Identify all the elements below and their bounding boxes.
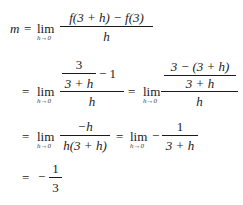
limit-subscript: h→0 [143, 98, 157, 105]
limit-subscript: h→0 [37, 143, 51, 150]
inner-denominator: 3 + h [164, 77, 236, 90]
fraction-numerator: f(3 + h) − f(3) [60, 11, 153, 24]
fraction-denominator: h(3 + h) [60, 139, 110, 152]
fraction-bar [162, 135, 198, 136]
inner-numerator: 3 − (3 + h) [164, 60, 236, 73]
fraction-numerator: 1 [49, 162, 62, 175]
limit-subscript: h→0 [37, 98, 51, 105]
equals-sign: = [116, 130, 123, 143]
negative-sign: − [152, 129, 159, 142]
minus-one: − 1 [99, 67, 116, 80]
fraction-bar [60, 26, 153, 27]
fraction-denominator: h [60, 95, 124, 108]
inner-fraction-bar [62, 73, 96, 74]
fraction-numerator: −h [60, 120, 110, 133]
equals-sign: = [22, 171, 29, 184]
fraction-denominator: h [161, 95, 238, 108]
negative-sign: − [38, 170, 45, 183]
fraction-denominator: 3 + h [162, 139, 198, 152]
fraction-bar [60, 91, 124, 92]
fraction-denominator: h [60, 30, 153, 43]
fraction-bar [161, 91, 238, 92]
equals-sign: = [22, 130, 29, 143]
equals-sign: = [22, 85, 29, 98]
inner-numerator: 3 [62, 58, 96, 71]
equals-sign: = [128, 85, 135, 98]
limit-subscript: h→0 [37, 35, 51, 42]
equals-sign: = [24, 22, 31, 35]
limit-subscript: h→0 [130, 143, 144, 150]
inner-denominator: 3 + h [62, 77, 96, 90]
fraction-numerator: 1 [162, 120, 198, 133]
fraction-bar [49, 177, 62, 178]
slope-variable: m [10, 22, 19, 35]
fraction-denominator: 3 [49, 181, 62, 194]
fraction-bar [60, 135, 110, 136]
